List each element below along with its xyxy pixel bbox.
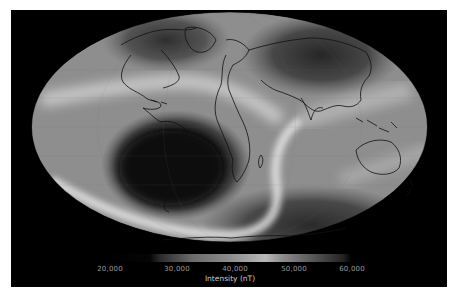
colorbar-tick-60000: 60,000 — [339, 265, 365, 273]
colorbar-tick-20000: 20,000 — [97, 265, 123, 273]
colorbar-tick-40000: 40,000 — [222, 265, 248, 273]
colorbar-gradient — [106, 254, 351, 262]
intensity-map — [11, 10, 447, 287]
colorbar-tick-30000: 30,000 — [164, 265, 190, 273]
colorbar-label: Intensity (nT) — [205, 274, 255, 283]
globe-shading — [31, 10, 431, 265]
figure-panel: 20,000 30,000 40,000 50,000 60,000 Inten… — [11, 10, 447, 287]
colorbar-tick-50000: 50,000 — [281, 265, 307, 273]
